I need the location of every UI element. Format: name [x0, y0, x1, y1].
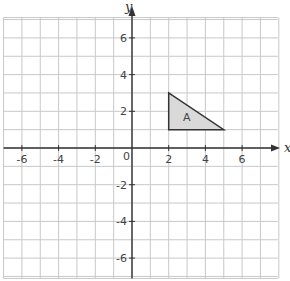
axes — [4, 6, 280, 278]
y-tick-label: 6 — [120, 32, 127, 45]
x-tick-label: 6 — [239, 153, 246, 166]
coordinate-grid: A xy0-6-4-2246642-2-4-6 — [0, 0, 290, 281]
y-tick-label: -4 — [116, 215, 127, 228]
y-tick-label: 2 — [120, 105, 127, 118]
y-tick-label: 4 — [120, 69, 127, 82]
origin-label: 0 — [123, 150, 130, 163]
x-tick-label: 4 — [202, 153, 209, 166]
x-tick-label: -4 — [53, 153, 64, 166]
x-tick-label: -6 — [16, 153, 27, 166]
shape-label: A — [183, 111, 191, 124]
tick-labels: xy0-6-4-2246642-2-4-6 — [16, 0, 290, 265]
x-axis-label: x — [284, 140, 290, 155]
y-axis-label: y — [124, 0, 133, 14]
y-tick-label: -6 — [116, 252, 127, 265]
x-tick-label: -2 — [90, 153, 101, 166]
x-tick-label: 2 — [165, 153, 172, 166]
y-tick-label: -2 — [116, 179, 127, 192]
